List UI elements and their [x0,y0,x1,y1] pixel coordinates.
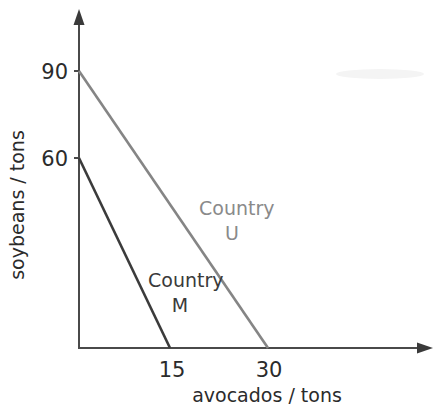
series-annotation-country-m-line2: M [172,294,188,316]
y-tick-label-90: 90 [41,60,68,84]
series-annotation-country-u-line2: U [225,222,239,244]
x-axis-title: avocados / tons [192,384,342,406]
y-axis-arrowhead [74,9,85,25]
chart-page: 90 60 15 30 avocados / tons soybeans / t… [0,0,444,408]
y-tick-label-60: 60 [41,147,68,171]
x-tick-label-15: 15 [159,358,186,382]
y-axis-title: soybeans / tons [6,130,28,280]
scan-artifact [336,69,424,79]
x-axis-arrowhead [417,343,433,354]
x-tick-label-30: 30 [256,358,283,382]
series-annotation-country-m-line1: Country [148,269,223,291]
series-annotation-country-u-line1: Country [199,197,274,219]
ppf-chart: 90 60 15 30 avocados / tons soybeans / t… [0,0,444,408]
